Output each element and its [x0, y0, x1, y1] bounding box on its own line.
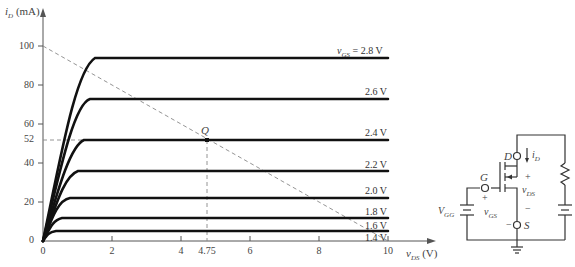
x-tick-4: 4: [169, 246, 193, 256]
y-tick-0: 0: [10, 235, 34, 245]
source-terminal: [514, 222, 521, 229]
x-tick-0: 0: [31, 246, 55, 256]
gate-label: G: [480, 172, 488, 183]
y-tick-100: 100: [10, 41, 34, 51]
y-tick-20: 20: [10, 197, 34, 207]
characteristic-curves: [43, 58, 388, 241]
x-tick-4.75: 4.75: [195, 246, 219, 256]
x-axis-label: vDS (V): [406, 248, 437, 262]
x-tick-2: 2: [100, 246, 124, 256]
curve-label-1.6: 1.6 V: [365, 221, 387, 231]
curve-label-2.4: 2.4 V: [365, 128, 387, 138]
y-axis-label: iD (mA): [5, 6, 40, 20]
vgg-label: VGG: [438, 206, 454, 219]
curve-label-2.2: 2.2 V: [365, 160, 387, 170]
drain-label: D: [504, 151, 512, 162]
vds-minus: −: [525, 204, 531, 214]
vgs-minus: −: [506, 220, 512, 230]
gate-terminal: [482, 185, 489, 192]
current-arrow-icon: [525, 158, 529, 163]
curve-vgs-1.6: [43, 231, 388, 241]
curve-vgs-1.8: [43, 218, 388, 241]
vgs-plus: +: [482, 193, 488, 203]
resistor-icon: [561, 163, 569, 185]
curve-label-1.8: 1.8 V: [365, 207, 387, 217]
body-arrow-icon: [507, 175, 512, 180]
drain-terminal: [514, 153, 521, 160]
curve-label-2.6: 2.6 V: [365, 87, 387, 97]
q-point-label: Q: [201, 125, 209, 136]
y-tick-40: 40: [10, 158, 34, 168]
curve-label-2.8: vGS = 2.8 V: [337, 46, 383, 59]
y-tick-60: 60: [10, 119, 34, 129]
id-label: iD: [532, 150, 540, 163]
load-line-group: [43, 46, 388, 241]
figure-canvas: [0, 0, 575, 267]
vgs-label: vGS: [484, 207, 497, 220]
curve-vgs-2.8: [43, 58, 388, 241]
x-tick-8: 8: [307, 246, 331, 256]
x-tick-6: 6: [238, 246, 262, 256]
curve-label-1.4: 1.4 V: [365, 233, 387, 243]
y-axis-arrow-icon: [40, 8, 46, 17]
source-label: S: [524, 220, 530, 231]
vds-plus: +: [525, 172, 531, 182]
vds-label: vDS: [522, 185, 535, 198]
x-axis-arrow-icon: [427, 238, 436, 244]
y-tick-80: 80: [10, 80, 34, 90]
curve-vgs-2.4: [43, 140, 388, 241]
y-tick-52: 52: [10, 134, 34, 144]
curve-label-2.0: 2.0 V: [365, 186, 387, 196]
curve-vgs-2.0: [43, 198, 388, 241]
x-tick-10: 10: [376, 246, 400, 256]
q-point-marker: [205, 138, 209, 142]
load-line: [43, 46, 388, 241]
